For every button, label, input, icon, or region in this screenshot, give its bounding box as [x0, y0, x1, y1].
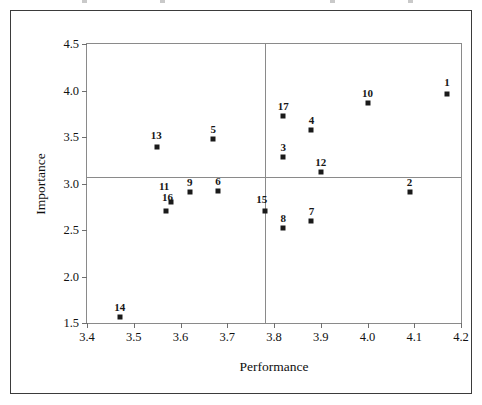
y-axis-tick: [82, 277, 87, 278]
data-point-label: 14: [114, 302, 125, 313]
y-axis-tick-label: 4.0: [63, 83, 79, 98]
data-point-marker: [215, 188, 220, 193]
x-axis-tick-label: 3.5: [126, 330, 142, 345]
x-axis-tick: [87, 323, 88, 328]
data-point-label: 7: [309, 206, 315, 217]
figure-border: Importance 1.52.02.53.03.54.04.53.43.53.…: [10, 10, 472, 394]
data-point-label: 12: [315, 157, 326, 168]
x-axis-tick-label: 3.7: [219, 330, 235, 345]
data-point-label: 5: [210, 124, 216, 135]
data-point-marker: [444, 92, 449, 97]
data-point-marker: [187, 189, 192, 194]
data-point-label: 2: [407, 177, 413, 188]
y-axis-tick-label: 2.5: [63, 223, 79, 238]
data-point-label: 8: [281, 213, 287, 224]
data-point-marker: [155, 145, 160, 150]
data-point-label: 10: [362, 88, 373, 99]
y-axis-tick: [82, 44, 87, 45]
y-axis-tick-label: 2.0: [63, 269, 79, 284]
y-axis-tick-label: 3.0: [63, 176, 79, 191]
reference-line-horizontal: [87, 177, 461, 178]
data-point-marker: [309, 218, 314, 223]
y-axis-tick: [82, 184, 87, 185]
y-axis-tick: [82, 91, 87, 92]
data-point-marker: [281, 154, 286, 159]
data-point-marker: [365, 100, 370, 105]
data-point-label: 9: [187, 177, 193, 188]
x-axis-tick: [321, 323, 322, 328]
data-point-label: 13: [151, 130, 162, 141]
page-artifact-row: [0, 0, 482, 7]
data-point-label: 3: [281, 142, 287, 153]
y-axis-tick: [82, 137, 87, 138]
x-axis-tick: [181, 323, 182, 328]
x-axis-tick-label: 3.6: [173, 330, 189, 345]
x-axis-tick-label: 4.2: [453, 330, 469, 345]
data-point-marker: [211, 136, 216, 141]
y-axis-tick-label: 1.5: [63, 316, 79, 331]
y-axis-tick-label: 4.5: [63, 37, 79, 52]
x-axis-tick-label: 4.1: [406, 330, 422, 345]
data-point-marker: [309, 127, 314, 132]
data-point-marker: [262, 209, 267, 214]
data-point-marker: [164, 209, 169, 214]
data-point-label: 16: [162, 192, 173, 203]
x-axis-tick-label: 3.8: [266, 330, 282, 345]
scatter-plot-figure: Importance 1.52.02.53.03.54.04.53.43.53.…: [0, 0, 482, 405]
y-axis-title: Importance: [31, 43, 51, 324]
data-point-marker: [117, 315, 122, 320]
x-axis-tick-label: 3.4: [79, 330, 95, 345]
data-point-marker: [318, 170, 323, 175]
x-axis-tick-label: 4.0: [360, 330, 376, 345]
data-point-label: 17: [278, 101, 289, 112]
y-axis-tick: [82, 230, 87, 231]
data-point-marker: [281, 113, 286, 118]
x-axis-tick: [134, 323, 135, 328]
data-point-label: 15: [256, 194, 267, 205]
x-axis-tick: [227, 323, 228, 328]
x-axis-tick: [461, 323, 462, 328]
plot-area: 1.52.02.53.03.54.04.53.43.53.63.73.83.94…: [86, 43, 462, 324]
reference-line-vertical: [265, 44, 266, 323]
x-axis-title: Performance: [86, 359, 462, 375]
data-point-label: 1: [444, 77, 450, 88]
x-axis-tick: [414, 323, 415, 328]
x-axis-tick: [368, 323, 369, 328]
data-point-marker: [281, 226, 286, 231]
x-axis-tick-label: 3.9: [313, 330, 329, 345]
data-point-label: 6: [215, 176, 221, 187]
x-axis-tick: [274, 323, 275, 328]
data-point-marker: [407, 189, 412, 194]
y-axis-tick-label: 3.5: [63, 130, 79, 145]
y-axis-title-text: Importance: [33, 153, 49, 214]
data-point-label: 4: [309, 115, 315, 126]
